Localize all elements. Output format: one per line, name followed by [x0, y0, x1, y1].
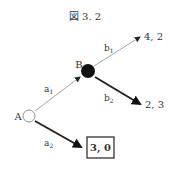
edge-a2 — [35, 121, 81, 147]
edge-a1-label: a1 — [44, 84, 53, 95]
node-a — [23, 110, 35, 122]
node-a-label: A — [13, 111, 22, 122]
figure-title: 図 3. 2 — [69, 11, 101, 22]
node-b — [81, 64, 95, 78]
edge-a2-label: a2 — [44, 138, 53, 149]
payoff-a2: 3, 0 — [90, 142, 111, 154]
node-b-label: B — [75, 59, 82, 70]
game-tree-figure: 図 3. 2 A B a1 a2 b1 b2 4, 2 2, 3 3, 0 — [0, 0, 171, 172]
game-tree-canvas: 図 3. 2 A B a1 a2 b1 b2 4, 2 2, 3 3, 0 — [0, 0, 171, 172]
edge-b1 — [94, 37, 140, 66]
edge-a1 — [35, 77, 80, 111]
payoff-b2: 2, 3 — [145, 99, 164, 110]
edge-b2-label: b2 — [104, 93, 114, 104]
payoff-b1: 4, 2 — [144, 31, 163, 42]
edge-b1-label: b1 — [104, 43, 114, 54]
edge-b2 — [95, 77, 140, 104]
